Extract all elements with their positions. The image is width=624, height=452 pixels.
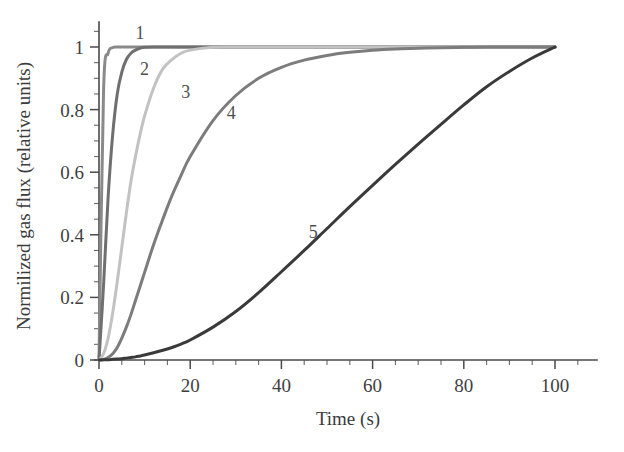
y-tick-labels: 00.20.40.60.81 [60, 37, 84, 371]
curve-label-2: 2 [140, 59, 149, 79]
x-tick-label: 0 [94, 375, 104, 396]
curve-4 [99, 47, 555, 360]
y-tick-label: 0 [75, 350, 85, 371]
x-tick-label: 80 [454, 375, 473, 396]
x-tick-labels: 020406080100 [94, 375, 569, 396]
chart-figure: 020406080100 00.20.40.60.81 12345 Time (… [0, 0, 624, 452]
y-tick-label: 0.2 [60, 287, 84, 308]
curve-label-5: 5 [309, 222, 318, 242]
y-tick-label: 0.6 [60, 162, 84, 183]
curve-label-4: 4 [227, 103, 236, 123]
y-tick-label: 1 [75, 37, 85, 58]
curve-labels: 12345 [136, 23, 318, 242]
x-tick-label: 60 [363, 375, 382, 396]
y-tick-label: 0.4 [60, 225, 84, 246]
y-axis-title: Normilized gas flux (relative units) [13, 62, 35, 330]
curve-label-1: 1 [136, 23, 145, 43]
y-tick-label: 0.8 [60, 100, 84, 121]
data-curves [99, 47, 555, 360]
x-axis-title: Time (s) [316, 408, 380, 430]
x-tick-label: 100 [541, 375, 570, 396]
x-tick-label: 40 [272, 375, 291, 396]
line-chart: 020406080100 00.20.40.60.81 12345 Time (… [0, 0, 624, 452]
curve-label-3: 3 [181, 82, 190, 102]
x-tick-label: 20 [181, 375, 200, 396]
